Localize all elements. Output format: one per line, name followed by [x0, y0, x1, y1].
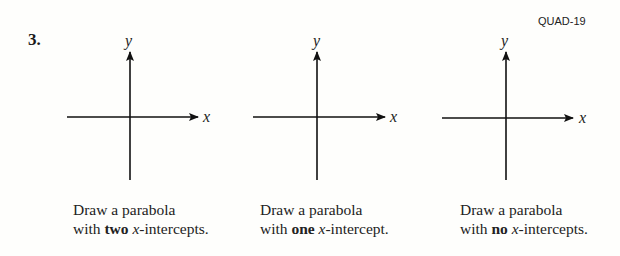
- x-axis-label-2: x: [389, 108, 397, 125]
- y-axis-label-2: y: [311, 32, 321, 50]
- y-axis-label-1: y: [123, 32, 133, 50]
- caption-panel-1: Draw a parabola with two x-intercepts.: [73, 200, 209, 238]
- x-axis-label-1: x: [202, 108, 210, 125]
- x-axis-label-3: x: [578, 109, 586, 126]
- axes-panel-1: [67, 52, 198, 180]
- caption-panel-2: Draw a parabola with one x-intercept.: [260, 200, 389, 238]
- y-axis-label-3: y: [499, 32, 509, 50]
- caption-panel-3: Draw a parabola with no x-intercepts.: [460, 200, 588, 238]
- axes-panel-3: [442, 52, 573, 180]
- axes-panel-2: [253, 52, 385, 180]
